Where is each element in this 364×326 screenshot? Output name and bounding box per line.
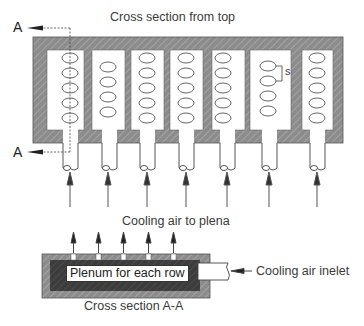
cooling-air-to-plena-label: Cooling air to plena	[122, 215, 230, 228]
section-marker-bottom: A	[13, 145, 22, 159]
section-marker-top: A	[13, 20, 22, 34]
air-pipes	[63, 143, 325, 168]
inlet-pipe	[198, 263, 230, 280]
inlet-arrow	[231, 269, 252, 274]
cooling-air-inlet-label: Cooling air inelet	[256, 265, 349, 278]
outlet-arrows	[71, 232, 176, 253]
top-section-title: Cross section from top	[110, 11, 235, 24]
plenum-label: Plenum for each row	[66, 265, 189, 282]
spacing-label: s	[285, 66, 291, 77]
bottom-section-title: Cross section A-A	[84, 300, 183, 313]
inflow-arrows	[67, 172, 320, 207]
